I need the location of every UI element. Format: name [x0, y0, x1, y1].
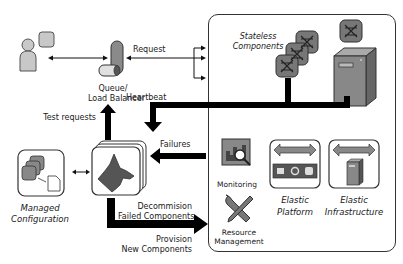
managed-configuration-label: Managed Configuration [4, 203, 76, 225]
failures-arrow [150, 148, 206, 164]
elastic-infrastructure-label: Elastic Infrastructure [318, 194, 390, 218]
resource-management-icon [222, 192, 256, 226]
failures-label: Failures [160, 140, 191, 150]
user-icon [16, 30, 61, 75]
monitoring-label: Monitoring [212, 180, 262, 190]
monitoring-icon [220, 137, 254, 167]
test-requests-arrow [100, 104, 116, 140]
provision-label: Provision New Components [118, 235, 192, 255]
watchdog-icon [90, 140, 148, 196]
resource-management-label: Resource Management [208, 228, 270, 246]
decommission-label: Decommision Failed Components [118, 202, 192, 222]
heartbeat-label: Heartbeat [126, 93, 166, 103]
managed-configuration-icon [16, 148, 68, 200]
elastic-platform-label: Elastic Platform [268, 194, 322, 218]
heartbeat-arrow [120, 78, 360, 140]
config-watchdog-arrow [72, 168, 90, 176]
elastic-infrastructure-icon [327, 138, 381, 192]
queue-load-balancer-icon [97, 40, 127, 80]
stateless-component-icon [274, 30, 324, 80]
elastic-platform-icon [268, 138, 322, 192]
request-label: Request [133, 45, 166, 55]
test-requests-label: Test requests [40, 113, 96, 123]
